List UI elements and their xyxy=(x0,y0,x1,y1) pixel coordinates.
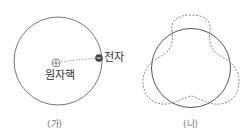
nucleus-icon xyxy=(52,59,60,67)
caption-a: (가) xyxy=(47,120,62,129)
panel-b-figure xyxy=(143,15,239,108)
nucleus-label: 원자핵 xyxy=(45,70,75,81)
electron-label: 전자 xyxy=(104,52,124,63)
orbit-circle xyxy=(152,29,231,108)
diagram-canvas xyxy=(0,0,247,135)
radius-line xyxy=(58,58,97,62)
caption-b: (나) xyxy=(183,120,198,129)
panel-a-figure xyxy=(14,17,103,105)
electron-icon xyxy=(95,54,103,62)
